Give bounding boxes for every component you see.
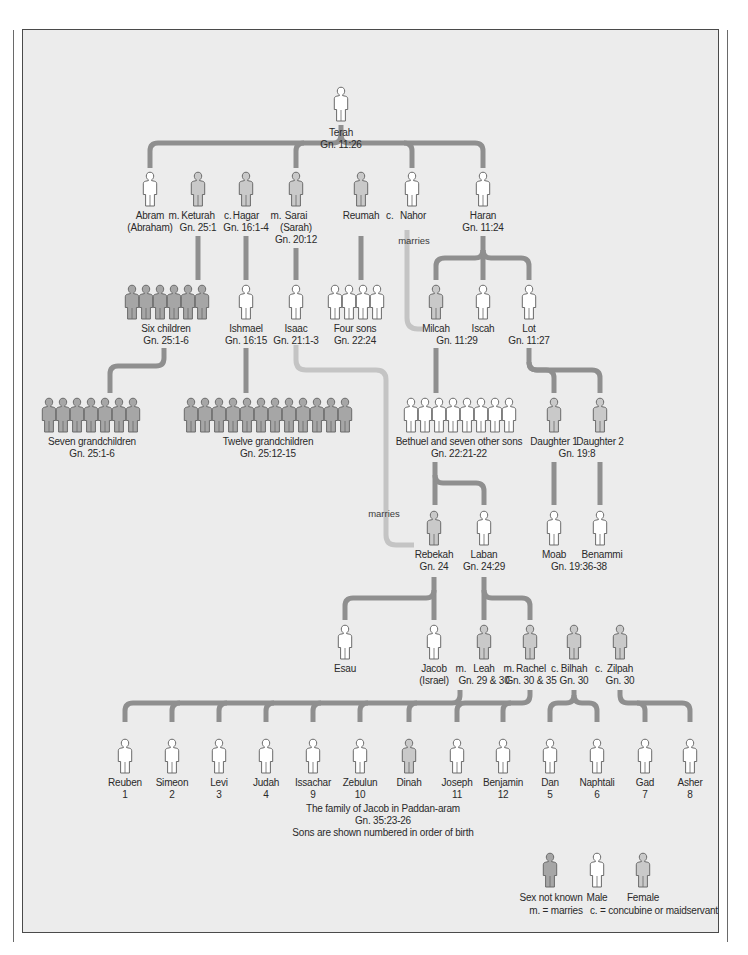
laban-male-icon: [477, 511, 490, 545]
reuben-male-icon: [118, 739, 131, 773]
seven-grandchildren-name: Seven grandchildren: [48, 436, 136, 448]
bilhah-name: Bilhah: [560, 663, 589, 675]
abram-male-icon: [143, 172, 156, 206]
haran-male-icon: [476, 172, 489, 206]
six-children-label: Six children Gn. 25:1-6: [141, 323, 190, 347]
keturah-name: Keturah: [180, 210, 217, 222]
reumah-name: Reumah: [343, 210, 380, 222]
ishmael-ref: Gn. 16:15: [225, 335, 267, 347]
sarai-ref2: Gn. 20:12: [275, 234, 317, 246]
rebekah-female-icon: [427, 511, 440, 545]
abram-keturah-relation: m.: [168, 210, 179, 222]
terah-label: Terah Gn. 11:26: [320, 127, 361, 151]
zilpah-female-icon: [613, 625, 626, 659]
haran-ref: Gn. 11:24: [462, 222, 503, 234]
laban-label: Laban Gn. 24:29: [463, 549, 505, 573]
rachel-ref: Gn. 30 & 35: [505, 675, 556, 687]
isaac-marries-note: marries: [368, 508, 400, 519]
son-name: Benjamin: [483, 777, 523, 789]
reumah-female-icon: [354, 172, 367, 206]
daughter1-female-icon: [547, 398, 560, 432]
son-label: Naphtali6: [579, 777, 614, 801]
simeon-male-icon: [165, 739, 178, 773]
son-order: 12: [483, 789, 523, 801]
seven-grandchildren-label: Seven grandchildren Gn. 25:1-6: [48, 436, 136, 460]
son-name: Levi: [210, 777, 228, 789]
son-order: 10: [343, 789, 378, 801]
sons-of-jacob-icons: [118, 739, 696, 773]
daughter1-label: Daughter 1: [530, 436, 577, 448]
leah-ref: Gn. 29 & 30: [458, 675, 509, 687]
legend-unknown-label: Sex not known: [520, 892, 583, 904]
bethuel-name: Bethuel and seven other sons: [396, 436, 523, 448]
isaac-label: Isaac Gn. 21:1-3: [273, 323, 318, 347]
four-sons-male-icons: [328, 285, 383, 319]
bilhah-ref: Gn. 30: [560, 675, 589, 687]
jacob-male-icon: [427, 625, 440, 659]
son-label: Simeon2: [156, 777, 189, 801]
sarai-name: Sarai: [275, 210, 317, 222]
naphtali-male-icon: [590, 739, 603, 773]
moab-ref: Gn. 19:36-38: [551, 561, 607, 573]
iscah-male-icon: [476, 285, 489, 319]
son-order: 2: [156, 789, 189, 801]
four-sons-ref: Gn. 22:24: [334, 335, 377, 347]
nahor-male-icon: [405, 172, 418, 206]
terah-ref: Gn. 11:26: [320, 139, 361, 151]
rachel-bilhah-relation: c.: [551, 663, 559, 675]
terah-male-icon: [334, 87, 347, 121]
joseph-male-icon: [450, 739, 463, 773]
bilhah-female-icon: [567, 625, 580, 659]
legend-female-label: Female: [627, 892, 659, 904]
son-order: 3: [210, 789, 228, 801]
sarai-female-icon: [289, 172, 302, 206]
keturah-label: Keturah Gn. 25:1: [180, 210, 217, 234]
son-name: Naphtali: [579, 777, 614, 789]
son-name: Zebulun: [343, 777, 378, 789]
son-label: Joseph11: [441, 777, 472, 801]
seven-grandchildren-unknown-icons: [42, 398, 139, 432]
son-label: Issachar9: [295, 777, 331, 801]
leah-name: Leah: [458, 663, 509, 675]
hagar-label: Hagar Gn. 16:1-4: [223, 210, 268, 234]
twelve-grandchildren-label: Twelve grandchildren Gn. 25:12-15: [223, 436, 314, 460]
son-name: Joseph: [441, 777, 472, 789]
twelve-grandchildren-unknown-icons: [184, 398, 351, 432]
seven-grandchildren-ref: Gn. 25:1-6: [48, 448, 136, 460]
leah-female-icon: [477, 625, 490, 659]
ishmael-label: Ishmael Gn. 16:15: [225, 323, 267, 347]
haran-name: Haran: [462, 210, 503, 222]
four-sons-label: Four sons Gn. 22:24: [334, 323, 377, 347]
levi-male-icon: [212, 739, 225, 773]
son-label: Levi3: [210, 777, 228, 801]
iscah-label: Iscah: [472, 323, 495, 335]
son-name: Issachar: [295, 777, 331, 789]
milcah-female-icon: [429, 285, 442, 319]
son-label: Dan5: [541, 777, 559, 801]
son-name: Dinah: [396, 777, 421, 789]
daughter-label: Dinah: [396, 777, 421, 789]
dinah-female-icon: [402, 739, 415, 773]
benammi-male-icon: [593, 511, 606, 545]
caption-note: Sons are shown numbered in order of birt…: [292, 827, 473, 839]
legend-c-key: c. = concubine or maidservant: [590, 905, 718, 917]
son-label: Zebulun10: [343, 777, 378, 801]
judah-male-icon: [259, 739, 272, 773]
zilpah-label: Zilpah Gn. 30: [606, 663, 635, 687]
asher-male-icon: [683, 739, 696, 773]
son-name: Asher: [677, 777, 702, 789]
daughter2-female-icon: [593, 398, 606, 432]
laban-ref: Gn. 24:29: [463, 561, 505, 573]
haran-label: Haran Gn. 11:24: [462, 210, 503, 234]
milcah-label: Milcah: [422, 323, 450, 335]
lot-label: Lot Gn. 11:27: [508, 323, 549, 347]
nahor-marries-note: marries: [398, 235, 430, 246]
twelve-grandchildren-name: Twelve grandchildren: [223, 436, 314, 448]
zilpah-ref: Gn. 30: [606, 675, 635, 687]
hagar-female-icon: [239, 172, 252, 206]
four-sons-name: Four sons: [334, 323, 377, 335]
bilhah-label: Bilhah Gn. 30: [560, 663, 589, 687]
nahor-label: Nahor: [400, 210, 426, 222]
son-name: Reuben: [108, 777, 142, 789]
twelve-grandchildren-ref: Gn. 25:12-15: [223, 448, 314, 460]
